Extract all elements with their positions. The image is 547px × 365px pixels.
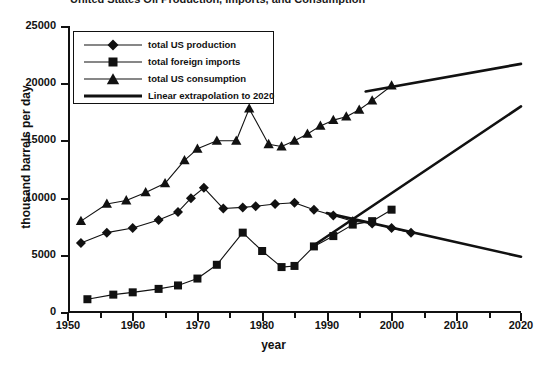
data-point-diamond — [154, 215, 164, 225]
x-tick-label-1990: 1990 — [297, 320, 357, 331]
x-tick-label-1970: 1970 — [168, 320, 228, 331]
legend-label-imports: total foreign imports — [148, 55, 240, 69]
series-5 — [327, 213, 521, 257]
legend-item-consumption[interactable]: total US consumption — [74, 71, 275, 87]
data-point-triangle — [244, 103, 254, 112]
x-tick-label-1980: 1980 — [232, 320, 292, 331]
data-point-diamond — [270, 199, 280, 209]
y-tick-15000 — [61, 140, 68, 142]
data-point-square — [278, 263, 286, 271]
x-tick-label-1960: 1960 — [103, 320, 163, 331]
x-tick-1960 — [132, 313, 134, 321]
y-tick-5000 — [61, 255, 68, 257]
diamond-marker-icon — [82, 37, 144, 53]
data-point-square — [193, 275, 201, 283]
x-tick-2020 — [520, 313, 522, 321]
data-point-triangle — [141, 187, 151, 196]
x-tick-2015 — [489, 313, 491, 318]
legend-box: total US production total foreign import… — [73, 31, 274, 104]
series-path-3 — [366, 64, 521, 92]
data-point-diamond — [290, 198, 300, 208]
y-tick-25000 — [61, 26, 68, 28]
data-point-diamond — [76, 238, 86, 248]
data-point-diamond — [309, 205, 319, 215]
x-tick-1955 — [100, 313, 102, 318]
chart-figure: United States Oil Production, Imports, a… — [0, 0, 547, 365]
data-point-triangle — [212, 135, 222, 144]
legend-item-production[interactable]: total US production — [74, 37, 275, 53]
data-point-triangle — [315, 120, 325, 129]
data-point-triangle — [341, 111, 351, 120]
x-tick-2010 — [456, 313, 458, 321]
line-marker-icon — [82, 88, 144, 104]
y-tick-label-0: 0 — [0, 306, 56, 317]
y-tick-10000 — [61, 198, 68, 200]
x-tick-label-2010: 2010 — [426, 320, 486, 331]
data-point-square — [83, 295, 91, 303]
series-path-4 — [314, 106, 521, 245]
data-point-square — [174, 281, 182, 289]
series-path-5 — [327, 213, 521, 257]
x-tick-1950 — [67, 313, 69, 321]
y-tick-label-15000: 15000 — [0, 134, 56, 145]
data-point-triangle — [179, 155, 189, 164]
x-tick-label-2000: 2000 — [362, 320, 422, 331]
x-tick-2000 — [391, 313, 393, 321]
data-point-triangle — [76, 216, 86, 225]
square-marker-icon — [82, 54, 144, 70]
series-4 — [314, 106, 521, 245]
y-tick-label-5000: 5000 — [0, 249, 56, 260]
y-tick-label-10000: 10000 — [0, 192, 56, 203]
data-point-diamond — [102, 228, 112, 238]
legend-label-production: total US production — [148, 38, 236, 52]
data-point-triangle — [289, 135, 299, 144]
x-tick-1965 — [165, 313, 167, 318]
legend-label-consumption: total US consumption — [148, 72, 246, 86]
x-tick-1995 — [359, 313, 361, 318]
data-point-square — [109, 291, 117, 299]
x-tick-1975 — [229, 313, 231, 318]
series-3 — [366, 64, 521, 92]
y-tick-label-20000: 20000 — [0, 77, 56, 88]
data-point-diamond — [238, 202, 248, 212]
data-point-diamond — [128, 223, 138, 233]
x-tick-1990 — [327, 313, 329, 321]
data-point-square — [155, 285, 163, 293]
y-tick-label-25000: 25000 — [0, 20, 56, 31]
x-tick-1985 — [294, 313, 296, 318]
data-point-square — [239, 229, 247, 237]
x-tick-label-2020: 2020 — [491, 320, 547, 331]
data-point-triangle — [354, 104, 364, 113]
data-point-triangle — [367, 95, 377, 104]
x-axis-title: year — [0, 338, 547, 352]
x-tick-1970 — [197, 313, 199, 321]
data-point-triangle — [302, 129, 312, 138]
data-point-square — [291, 262, 299, 270]
legend-label-extrapolation: Linear extrapolation to 2020 — [148, 89, 274, 103]
x-tick-1980 — [262, 313, 264, 321]
legend-item-imports[interactable]: total foreign imports — [74, 54, 275, 70]
data-point-triangle — [192, 143, 202, 152]
data-point-triangle — [231, 135, 241, 144]
x-tick-label-1950: 1950 — [38, 320, 98, 331]
series-0 — [76, 183, 416, 248]
data-point-square — [388, 206, 396, 214]
data-point-square — [213, 261, 221, 269]
data-point-triangle — [263, 139, 273, 148]
data-point-square — [129, 288, 137, 296]
x-tick-2005 — [424, 313, 426, 318]
data-point-triangle — [121, 195, 131, 204]
chart-title-clipped: United States Oil Production, Imports, a… — [70, 0, 530, 7]
triangle-marker-icon — [82, 71, 144, 87]
y-tick-20000 — [61, 83, 68, 85]
legend-item-extrapolation[interactable]: Linear extrapolation to 2020 — [74, 88, 275, 104]
data-point-square — [258, 247, 266, 255]
data-point-diamond — [251, 201, 261, 211]
